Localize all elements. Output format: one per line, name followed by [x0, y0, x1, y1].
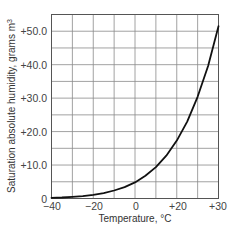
y-tick-label: +40.0: [20, 59, 47, 71]
x-tick-label: +30: [209, 200, 227, 212]
y-tick-label: +30.0: [20, 92, 47, 104]
y-axis-label-superscript: 3: [6, 19, 13, 23]
humidity-chart: 0+10.0+20.0+30.0+40.0+50.0 −40−200+20+30…: [0, 0, 234, 228]
x-tick-label: −40: [43, 200, 61, 212]
y-axis-label-text: Saturation absolute humidity, grams m: [6, 23, 17, 193]
x-tick-label: +20: [169, 200, 187, 212]
x-tick-label: −20: [85, 200, 103, 212]
y-tick-label: +10.0: [20, 159, 47, 171]
x-axis-ticks: −40−200+20+30: [43, 200, 227, 212]
x-axis-label: Temperature, °C: [99, 213, 172, 224]
y-axis-ticks: 0+10.0+20.0+30.0+40.0+50.0: [20, 25, 47, 204]
x-tick-label: 0: [133, 200, 139, 212]
y-tick-label: +20.0: [20, 126, 47, 138]
y-tick-label: +50.0: [20, 25, 47, 37]
y-axis-label: Saturation absolute humidity, grams m3: [6, 19, 17, 193]
